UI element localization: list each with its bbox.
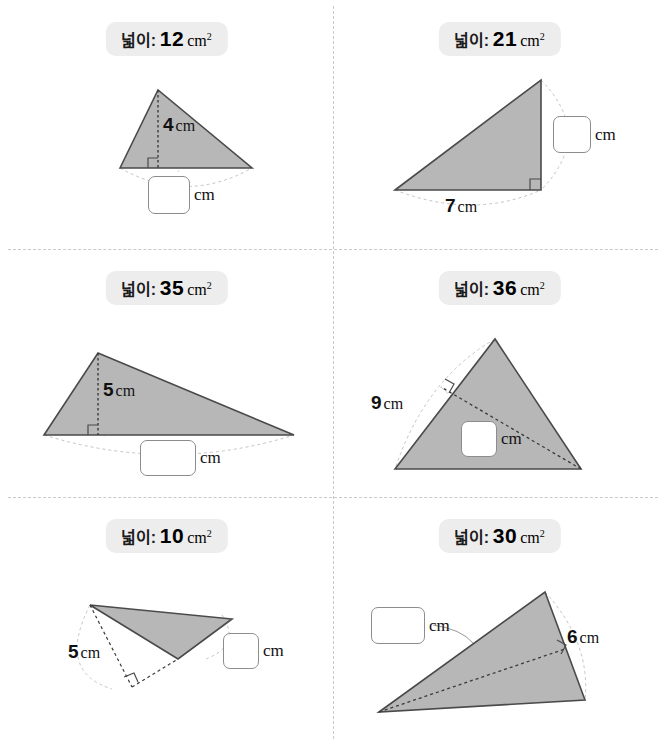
worksheet-page: 넓이:12cm2 4cm cm 넓이:21cm2 — [0, 0, 666, 745]
answer-unit-1: cm — [194, 185, 215, 205]
problem-cell-2: 넓이:21cm2 7cm cm — [333, 0, 666, 248]
triangle-shape-3 — [44, 353, 294, 435]
answer-unit-6: cm — [429, 616, 450, 636]
problem-cell-6: 넓이:30cm2 6cm cm — [333, 497, 666, 745]
height-unit-1: cm — [176, 117, 196, 134]
side-unit-6: cm — [580, 629, 600, 646]
answer-unit-2: cm — [595, 125, 616, 145]
base-value-2: 7 — [445, 195, 456, 216]
answer-group-1: cm — [148, 176, 215, 214]
triangle-shape-2 — [395, 80, 541, 190]
height-dimension-5: 5cm — [68, 642, 100, 661]
problem-cell-3: 넓이:35cm2 5cm cm — [0, 249, 333, 497]
side-unit-4: cm — [384, 395, 404, 412]
answer-input-2[interactable] — [553, 116, 591, 153]
base-dimension-2: 7cm — [445, 196, 477, 215]
height-value-5: 5 — [68, 641, 79, 662]
answer-group-3: cm — [140, 440, 221, 476]
height-unit-5: cm — [81, 644, 101, 661]
figure-3: 5cm cm — [0, 249, 333, 497]
answer-input-4[interactable] — [461, 421, 497, 457]
problem-cell-5: 넓이:10cm2 5cm cm — [0, 497, 333, 745]
problem-cell-1: 넓이:12cm2 4cm cm — [0, 0, 333, 248]
answer-group-6: cm — [371, 607, 450, 644]
triangle-shape-5 — [90, 605, 232, 659]
right-angle-marker-4 — [445, 379, 454, 393]
height-unit-3: cm — [116, 382, 136, 399]
answer-group-5: cm — [223, 633, 284, 669]
problem-cell-4: 넓이:36cm2 9cm cm — [333, 249, 666, 497]
figure-4: 9cm cm — [333, 249, 666, 497]
answer-unit-3: cm — [200, 448, 221, 468]
height-value-1: 4 — [163, 114, 174, 135]
base-unit-2: cm — [458, 198, 478, 215]
height-value-3: 5 — [103, 379, 114, 400]
answer-group-2: cm — [553, 116, 616, 153]
figure-2: 7cm cm — [333, 0, 666, 248]
extension-line-5 — [132, 659, 178, 687]
figure-6: 6cm cm — [333, 497, 666, 745]
answer-input-1[interactable] — [148, 176, 190, 214]
height-dimension-3: 5cm — [103, 380, 135, 399]
answer-input-3[interactable] — [140, 440, 196, 476]
side-value-6: 6 — [567, 626, 578, 647]
height-dimension-1: 4cm — [163, 115, 195, 134]
answer-input-6[interactable] — [371, 607, 425, 644]
figure-5: 5cm cm — [0, 497, 333, 745]
answer-group-4: cm — [461, 421, 522, 457]
answer-input-5[interactable] — [223, 633, 259, 669]
answer-unit-4: cm — [501, 429, 522, 449]
side-value-4: 9 — [371, 392, 382, 413]
figure-1: 4cm cm — [0, 0, 333, 248]
side-dimension-6: 6cm — [567, 627, 599, 646]
answer-unit-5: cm — [263, 641, 284, 661]
side-dimension-4: 9cm — [371, 393, 403, 412]
